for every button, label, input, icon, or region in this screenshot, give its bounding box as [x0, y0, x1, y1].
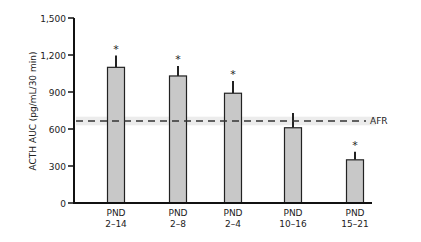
bar: [285, 128, 302, 203]
significance-marker: *: [175, 53, 181, 66]
bar: [225, 93, 242, 203]
bar-group: *: [225, 68, 242, 203]
afr-label: AFR: [370, 116, 388, 126]
y-tick-label: 600: [49, 125, 66, 135]
y-tick-label: 1,500: [40, 14, 66, 24]
significance-marker: *: [230, 68, 236, 81]
x-tick-label: PND2–8: [168, 208, 187, 229]
bar-group: *: [347, 139, 364, 203]
significance-marker: *: [352, 139, 358, 152]
acth-bar-chart: **** AFR 03006009001,2001,500 PND2–14PND…: [0, 0, 421, 242]
x-axis-labels: PND2–14PND2–8PND2–4PND10–16PND15–21: [105, 208, 369, 229]
x-tick-label: PND2–4: [223, 208, 242, 229]
bar-group: *: [170, 53, 187, 203]
bar-group: *: [108, 43, 125, 203]
bar: [347, 160, 364, 203]
bar: [170, 76, 187, 203]
y-axis: 03006009001,2001,500: [40, 14, 372, 209]
y-tick-label: 1,200: [40, 51, 66, 61]
y-tick-label: 900: [49, 88, 66, 98]
bar-group: [285, 113, 302, 203]
x-tick-label: PND2–14: [105, 208, 127, 229]
bar: [108, 67, 125, 203]
y-axis-label: ACTH AUC (pg/mL/30 min): [28, 52, 38, 171]
y-tick-label: 0: [60, 199, 66, 209]
significance-marker: *: [113, 43, 119, 56]
y-tick-label: 300: [49, 162, 66, 172]
x-tick-label: PND10–16: [279, 208, 307, 229]
x-tick-label: PND15–21: [341, 208, 368, 229]
